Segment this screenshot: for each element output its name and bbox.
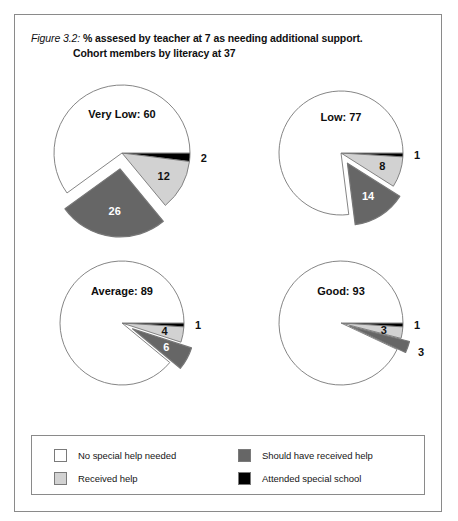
legend-item: Should have received help xyxy=(238,446,373,465)
pie-slice-value-label: 2 xyxy=(201,152,207,164)
legend-item-label: Attended special school xyxy=(262,473,361,484)
pie-slice-should-have-received-help xyxy=(133,329,192,369)
pie-chart-title: Good: 93 xyxy=(317,285,365,297)
legend-item: Received help xyxy=(54,469,176,488)
pie-slice-attended-special-school xyxy=(122,153,190,162)
pie-slice-should-have-received-help xyxy=(349,326,409,352)
legend-item-label: Received help xyxy=(78,473,138,484)
figure-frame: Figure 3.2: % assesed by teacher at 7 as… xyxy=(14,14,442,512)
pie-slice-no-special-help-needed xyxy=(279,261,403,385)
legend-item: Attended special school xyxy=(238,469,373,488)
pie-slice-received-help xyxy=(341,153,403,186)
pie-slice-value-label: 14 xyxy=(362,190,375,202)
pie-slice-received-help xyxy=(122,153,189,205)
pie-slice-value-label: 3 xyxy=(418,346,424,358)
pie-chart-average: 146Average: 89 xyxy=(60,261,201,385)
pie-slice-attended-special-school xyxy=(122,323,184,327)
pie-chart-very-low: 21226Very Low: 60 xyxy=(54,85,207,237)
pie-slice-no-special-help-needed xyxy=(54,85,190,193)
legend-swatch-no-special-help xyxy=(54,449,67,462)
pie-slice-value-label: 12 xyxy=(158,170,170,182)
pie-slice-value-label: 4 xyxy=(162,325,169,337)
pie-slice-value-label: 1 xyxy=(414,319,420,331)
pie-slice-value-label: 26 xyxy=(109,205,121,217)
legend-swatch-attended-special-school xyxy=(238,472,251,485)
pie-slice-received-help xyxy=(341,323,403,338)
figure-caption: Figure 3.2: % assesed by teacher at 7 as… xyxy=(31,31,423,61)
legend-item: No special help needed xyxy=(54,446,176,465)
pie-slice-attended-special-school xyxy=(341,153,403,157)
legend-column-left: No special help neededReceived help xyxy=(54,446,176,492)
pie-slice-value-label: 1 xyxy=(195,319,201,331)
legend-item-label: Should have received help xyxy=(262,450,373,461)
caption-line-1: Figure 3.2: % assesed by teacher at 7 as… xyxy=(31,31,423,46)
pie-chart-title: Low: 77 xyxy=(321,111,362,123)
pie-slice-no-special-help-needed xyxy=(279,91,403,215)
pie-slice-attended-special-school xyxy=(341,323,403,327)
pie-slice-value-label: 1 xyxy=(414,149,420,161)
legend-column-right: Should have received helpAttended specia… xyxy=(238,446,373,492)
caption-text-1: % assesed by teacher at 7 as needing add… xyxy=(80,32,363,44)
figure-number: Figure 3.2: xyxy=(31,32,80,44)
pie-slice-value-label: 8 xyxy=(379,160,385,172)
pie-chart-good: 133Good: 93 xyxy=(279,261,424,385)
pie-chart-title: Average: 89 xyxy=(91,285,153,297)
caption-line-2: Cohort members by literacy at 37 xyxy=(31,46,423,61)
pie-chart-low: 1814Low: 77 xyxy=(279,91,420,225)
pie-slice-received-help xyxy=(122,323,184,342)
pie-slice-no-special-help-needed xyxy=(60,261,184,385)
pie-slice-should-have-received-help xyxy=(347,163,399,225)
pie-slice-value-label: 6 xyxy=(163,341,169,353)
pie-slice-should-have-received-help xyxy=(65,169,163,237)
legend-item-label: No special help needed xyxy=(78,450,176,461)
pie-chart-title: Very Low: 60 xyxy=(88,108,155,120)
legend-swatch-should-have-received-help xyxy=(238,449,251,462)
pie-slice-value-label: 3 xyxy=(381,324,387,336)
legend-swatch-received-help xyxy=(54,472,67,485)
chart-legend: No special help neededReceived help Shou… xyxy=(31,435,425,495)
